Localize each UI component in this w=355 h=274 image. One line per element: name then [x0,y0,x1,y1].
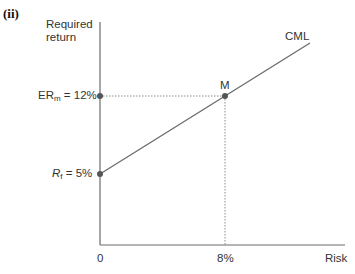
er-m-label: ERm = 12% [38,89,97,103]
er-m-dot [97,93,103,99]
point-m-label: M [220,79,230,91]
rf-label: Rf = 5% [52,167,92,181]
rf-dot [97,171,103,177]
x-axis-label: Risk [325,252,347,264]
market-portfolio-dot [222,93,228,99]
cml-label: CML [285,30,309,42]
x-origin-label: 0 [97,252,103,264]
x-tick-8pct-label: 8% [217,252,234,264]
cml-line [100,43,310,174]
